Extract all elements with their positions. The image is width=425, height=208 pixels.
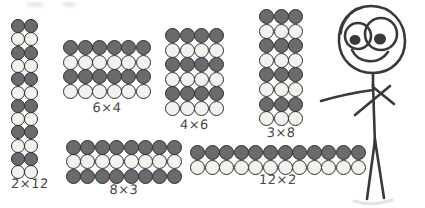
array-dot: [121, 69, 136, 84]
array-dot: [165, 57, 180, 72]
array-dot: [167, 154, 182, 169]
array-dot: [138, 169, 153, 184]
array-dot: [109, 140, 124, 155]
array-dot: [92, 69, 107, 84]
array-dot: [209, 86, 224, 101]
array-dot: [205, 145, 220, 160]
array-dot: [109, 154, 124, 169]
array-dot: [219, 145, 234, 160]
array-dot: [336, 145, 351, 160]
array-dot: [219, 160, 234, 175]
array-dot: [209, 43, 224, 58]
array-dot: [11, 19, 25, 33]
array-dot: [24, 59, 38, 73]
array-dot: [24, 72, 38, 86]
array-dot: [274, 111, 289, 126]
array-dot: [351, 160, 366, 175]
array-dot: [278, 160, 293, 175]
array-dot: [63, 84, 78, 99]
array-dot: [24, 46, 38, 60]
array-dot: [259, 67, 274, 82]
smile: [352, 50, 388, 61]
array-dot: [24, 112, 38, 126]
array-dot: [80, 140, 95, 155]
array-dot: [278, 145, 293, 160]
array-dot: [194, 101, 209, 116]
array-dot: [190, 145, 205, 160]
scan-smudge: [62, 2, 76, 7]
array-dot: [80, 154, 95, 169]
array-dot: [321, 145, 336, 160]
array-dot: [24, 86, 38, 100]
array-dot: [24, 32, 38, 46]
left-leg: [367, 140, 375, 199]
array-label: 8×3: [66, 182, 183, 197]
array-dot: [351, 145, 366, 160]
dot-grid: [259, 9, 303, 126]
array-dot: [66, 140, 81, 155]
torso: [373, 84, 375, 145]
array-dot: [263, 145, 278, 160]
right-eye: [365, 18, 397, 50]
array-dot: [288, 9, 303, 24]
array-label: 3×8: [259, 125, 304, 140]
array-dot: [95, 140, 110, 155]
array-dot: [78, 69, 93, 84]
arm-cross: [355, 86, 390, 115]
array-dot: [95, 169, 110, 184]
array-dot: [274, 9, 289, 24]
array-12x2: 12×2: [190, 145, 366, 175]
array-dot: [259, 53, 274, 68]
array-dot: [209, 28, 224, 43]
array-3x8: 3×8: [259, 9, 303, 126]
array-dot: [180, 43, 195, 58]
array-dot: [66, 169, 81, 184]
array-dot: [248, 145, 263, 160]
array-dot: [205, 160, 220, 175]
scan-smudge: [26, 2, 44, 7]
array-dot: [180, 101, 195, 116]
array-dot: [259, 111, 274, 126]
array-dot: [209, 72, 224, 87]
array-dot: [107, 40, 122, 55]
array-dot: [180, 28, 195, 43]
array-dot: [259, 82, 274, 97]
array-dot: [109, 169, 124, 184]
array-dot: [138, 154, 153, 169]
array-dot: [274, 53, 289, 68]
array-dot: [92, 84, 107, 99]
array-dot: [336, 160, 351, 175]
array-dot: [121, 40, 136, 55]
array-dot: [288, 38, 303, 53]
array-dot: [136, 69, 151, 84]
array-dot: [11, 112, 25, 126]
array-6x4: 6×4: [63, 40, 151, 99]
array-dot: [165, 86, 180, 101]
array-dot: [288, 24, 303, 39]
array-dot: [11, 46, 25, 60]
array-label: 4×6: [165, 117, 225, 132]
array-dot: [95, 154, 110, 169]
array-dot: [190, 160, 205, 175]
array-dot: [288, 82, 303, 97]
array-dot: [136, 55, 151, 70]
array-dot: [234, 145, 249, 160]
array-dot: [152, 140, 167, 155]
array-dot: [24, 139, 38, 153]
array-dot: [63, 40, 78, 55]
array-dot: [194, 57, 209, 72]
array-dot: [66, 154, 81, 169]
array-dot: [63, 69, 78, 84]
array-dot: [209, 57, 224, 72]
array-dot: [165, 72, 180, 87]
dot-grid: [190, 145, 366, 175]
array-dot: [121, 55, 136, 70]
array-dot: [274, 97, 289, 112]
array-dot: [259, 24, 274, 39]
array-dot: [307, 160, 322, 175]
array-dot: [209, 101, 224, 116]
right-leg: [375, 140, 384, 198]
array-dot: [24, 99, 38, 113]
array-dot: [274, 67, 289, 82]
array-dot: [180, 86, 195, 101]
